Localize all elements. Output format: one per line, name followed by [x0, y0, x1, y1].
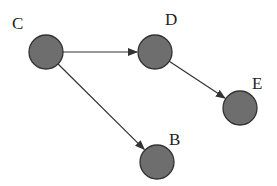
node-circle — [138, 35, 172, 69]
node-e: E — [223, 74, 262, 125]
edge-d-to-e — [169, 61, 225, 98]
edge-c-to-b — [58, 64, 144, 149]
edges — [58, 52, 225, 149]
nodes: CDEB — [12, 10, 262, 179]
node-b: B — [140, 130, 180, 179]
node-circle — [29, 35, 63, 69]
node-label: B — [169, 130, 180, 149]
directed-graph: CDEB — [0, 0, 277, 186]
node-label: C — [12, 14, 23, 33]
node-d: D — [138, 10, 177, 69]
node-circle — [223, 91, 257, 125]
node-circle — [140, 145, 174, 179]
node-label: E — [252, 74, 262, 93]
node-label: D — [165, 10, 177, 29]
node-c: C — [12, 14, 63, 69]
